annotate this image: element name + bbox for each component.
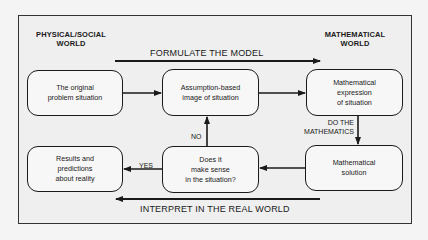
node-math-expression-text: Mathematical expression of situation xyxy=(333,78,376,108)
node-results: Results and predictions about reality xyxy=(27,146,123,192)
node-original-problem-text: The original problem situation xyxy=(48,83,103,103)
node-makes-sense-text: Does it make sense in the situation? xyxy=(185,155,235,185)
formulate-model-label: FORMULATE THE MODEL xyxy=(150,48,263,58)
interpret-real-world-label: INTERPRET IN THE REAL WORLD xyxy=(140,204,290,214)
node-assumption-image: Assumption-based image of situation xyxy=(162,69,259,116)
node-math-solution: Mathematical solution xyxy=(305,145,403,191)
no-label: NO xyxy=(191,132,202,141)
yes-label: YES xyxy=(139,161,153,170)
node-original-problem: The original problem situation xyxy=(27,70,123,116)
node-assumption-image-text: Assumption-based image of situation xyxy=(181,83,241,103)
physical-social-world-label: PHYSICAL/SOCIAL WORLD xyxy=(30,30,112,48)
node-results-text: Results and predictions about reality xyxy=(55,154,94,184)
do-mathematics-label: DO THE MATHEMATICS xyxy=(296,118,354,136)
node-math-solution-text: Mathematical solution xyxy=(333,158,376,178)
node-math-expression: Mathematical expression of situation xyxy=(306,69,403,116)
mathematical-world-label: MATHEMATICAL WORLD xyxy=(315,30,395,48)
node-makes-sense: Does it make sense in the situation? xyxy=(162,146,259,193)
